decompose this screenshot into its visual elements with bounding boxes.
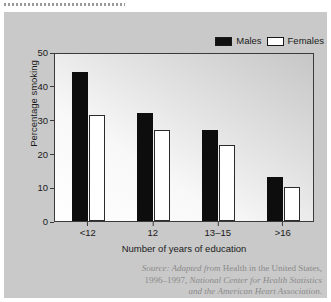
figure-page: Males Females 01020304050 Percentage smo…	[0, 0, 331, 302]
y-axis-tick-label: 50	[37, 48, 50, 58]
x-axis-tick-mark	[282, 222, 283, 226]
plot-area	[54, 53, 314, 222]
x-axis: <121213–15>16	[54, 222, 314, 238]
y-axis-tick-label: 10	[37, 183, 50, 193]
legend-swatch-males-icon	[215, 37, 232, 46]
y-axis-tick-label: 30	[37, 116, 50, 126]
source-work: Health in the United States,	[223, 263, 322, 273]
x-axis-tick: >16	[275, 222, 291, 238]
y-axis-tick-label: 20	[37, 150, 50, 160]
x-axis-tick-mark	[217, 222, 218, 226]
legend-label-females: Females	[288, 36, 324, 46]
x-axis-title: Number of years of education	[54, 243, 314, 254]
y-axis-tick-label: 40	[37, 82, 50, 92]
source-publisher: National Center for Health Statistics	[190, 275, 323, 285]
x-axis-tick: 13–15	[205, 222, 231, 238]
bar-females-2	[219, 145, 235, 221]
legend-item-males: Males	[215, 36, 261, 46]
x-axis-tick-label: 13–15	[205, 227, 231, 238]
bar-males-0	[72, 72, 88, 221]
source-caption: Source: Adapted from Health in the Unite…	[82, 263, 322, 298]
x-axis-tick: <12	[80, 222, 96, 238]
bar-males-1	[137, 113, 153, 221]
source-years: 1996–1997,	[145, 275, 188, 285]
bar-females-1	[154, 130, 170, 221]
bar-females-0	[89, 115, 105, 221]
legend-item-females: Females	[267, 36, 324, 46]
x-axis-tick-mark	[152, 222, 153, 226]
y-axis-tick-label: 0	[43, 217, 50, 227]
y-axis-title: Percentage smoking	[28, 24, 39, 184]
x-axis-tick-mark	[87, 222, 88, 226]
source-prefix: Source: Adapted from	[142, 263, 221, 273]
bars-layer	[55, 54, 313, 221]
x-axis-tick-label: 12	[148, 227, 159, 238]
legend-label-males: Males	[236, 36, 261, 46]
bar-females-3	[284, 187, 300, 221]
figure-panel: Males Females 01020304050 Percentage smo…	[4, 12, 327, 298]
chart-legend: Males Females	[184, 34, 324, 48]
legend-swatch-females-icon	[267, 37, 284, 46]
bar-males-3	[267, 177, 283, 221]
x-axis-tick-label: <12	[80, 227, 96, 238]
source-and: and the American Heart Association.	[189, 286, 322, 296]
decorative-dotted-rule	[4, 3, 125, 6]
x-axis-tick-label: >16	[275, 227, 291, 238]
bar-males-2	[202, 130, 218, 221]
x-axis-tick: 12	[148, 222, 159, 238]
